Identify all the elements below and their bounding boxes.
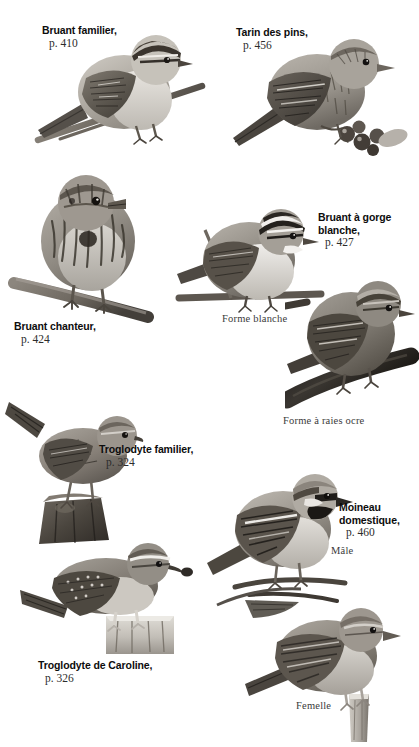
species-name: Troglodyte familier,	[99, 443, 193, 456]
species-page-ref: p. 410	[42, 37, 117, 50]
label-troglodyte-familier: Troglodyte familier, p. 324	[99, 443, 193, 469]
species-page-ref: p. 324	[99, 456, 193, 469]
species-name: Tarin des pins,	[236, 26, 308, 39]
species-page-ref: p. 427	[318, 236, 391, 249]
species-page-ref: p. 326	[38, 672, 152, 685]
species-page-ref: p. 424	[14, 333, 96, 346]
photo-troglodyte-familier	[5, 398, 145, 548]
species-name: Troglodyte de Caroline,	[38, 659, 152, 672]
photo-troglodyte-de-caroline	[20, 528, 200, 658]
caption-forme-blanche: Forme blanche	[222, 313, 287, 324]
species-page-ref: p. 460	[339, 526, 400, 539]
photo-moineau-domestique-femelle	[245, 600, 417, 745]
label-tarin-des-pins: Tarin des pins, p. 456	[236, 26, 308, 52]
caption-forme-a-raies-ocre: Forme à raies ocre	[283, 415, 364, 426]
label-bruant-a-gorge-blanche: Bruant à gorge blanche, p. 427	[318, 211, 391, 249]
photo-bruant-gorge-blanche-forme-raies-ocre	[285, 272, 419, 417]
label-troglodyte-de-caroline: Troglodyte de Caroline, p. 326	[38, 659, 152, 685]
caption-male: Mâle	[331, 545, 353, 556]
label-bruant-chanteur: Bruant chanteur, p. 424	[14, 320, 96, 346]
species-name: Bruant à gorge blanche,	[318, 211, 391, 236]
species-name: Bruant familier,	[42, 24, 117, 37]
species-name: Moineau domestique,	[339, 501, 400, 526]
label-moineau-domestique: Moineau domestique, p. 460	[339, 501, 400, 539]
label-bruant-familier: Bruant familier, p. 410	[42, 24, 117, 50]
caption-femelle: Femelle	[296, 700, 331, 711]
species-name: Bruant chanteur,	[14, 320, 96, 333]
field-guide-page: Bruant familier, p. 410	[0, 0, 419, 747]
photo-bruant-chanteur	[8, 165, 178, 325]
species-page-ref: p. 456	[236, 39, 308, 52]
